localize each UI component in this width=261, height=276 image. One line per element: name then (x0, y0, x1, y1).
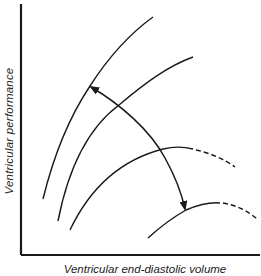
curve-3-dashed-extension (196, 150, 235, 167)
curve-4-dashed-extension (223, 203, 257, 219)
x-axis-label: Ventricular end-diastolic volume (30, 262, 260, 276)
curve-1 (43, 17, 153, 199)
curve-4 (148, 203, 220, 238)
curve-2 (58, 57, 193, 221)
y-axis-label: Ventricular performance (2, 56, 16, 206)
